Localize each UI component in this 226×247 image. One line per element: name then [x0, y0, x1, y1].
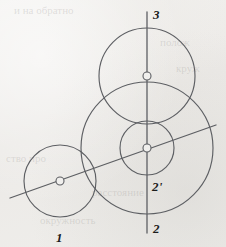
- center-marker-group: [56, 72, 151, 185]
- label-circle-1: 1: [56, 231, 63, 244]
- center-marker-circle-1: [56, 177, 64, 185]
- diagonal-axis-line: [10, 125, 216, 198]
- center-marker-circle-2: [143, 144, 151, 152]
- axis-group: [10, 12, 216, 233]
- label-circle-2: 2: [153, 222, 160, 235]
- geometry-figure: и на обратно полож круж ство про расстоя…: [0, 0, 226, 247]
- label-circle-2-prime: 2': [152, 180, 163, 193]
- construction-drawing: [0, 0, 226, 247]
- circle-group: [24, 28, 213, 217]
- center-marker-circle-3: [143, 72, 151, 80]
- label-circle-3: 3: [153, 8, 160, 21]
